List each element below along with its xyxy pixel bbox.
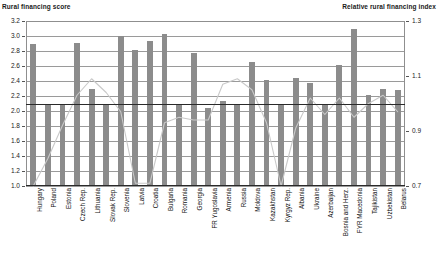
category-label: Belarus — [400, 188, 407, 209]
left-tick-mark — [22, 171, 25, 172]
category-label-text: Estonia — [65, 188, 72, 209]
left-tick-label: 2.8 — [0, 47, 20, 54]
category-label: Poland — [50, 188, 57, 208]
category-label-text: Poland — [50, 188, 57, 208]
category-label: Tajikistan — [371, 188, 378, 214]
category-label: Estonia — [65, 188, 72, 209]
right-tick-mark — [406, 186, 409, 187]
category-label-text: Bosnia and Herz. — [342, 188, 349, 236]
category-label-text: Romania — [181, 188, 188, 213]
category-label-text: Russia — [240, 188, 247, 207]
left-tick-label: 2.6 — [0, 62, 20, 69]
left-tick-label: 1.2 — [0, 167, 20, 174]
category-label-text: Tajikistan — [371, 188, 378, 214]
category-label: Kyrgyz Rep. — [284, 188, 291, 222]
left-tick-label: 3.2 — [0, 17, 20, 24]
category-label: Bosnia and Herz. — [342, 188, 349, 236]
category-label: FR Yugoslavia — [211, 188, 218, 229]
right-tick-label: 0.9 — [412, 127, 434, 134]
left-axis-title: Rural financing score — [2, 3, 71, 10]
left-tick-mark — [22, 51, 25, 52]
category-label: Azerbaijan — [327, 188, 334, 218]
category-label-text: Belarus — [400, 188, 407, 209]
category-label: Lithuania — [94, 188, 101, 214]
left-tick-label: 1.0 — [0, 182, 20, 189]
category-label-text: Azerbaijan — [327, 188, 334, 218]
right-tick-mark — [406, 21, 409, 22]
category-label-text: FR Yugoslavia — [211, 188, 218, 229]
right-tick-label: 1.3 — [412, 17, 434, 24]
category-label: Bulgaria — [167, 188, 174, 211]
category-label: Romania — [181, 188, 188, 213]
left-tick-mark — [22, 21, 25, 22]
left-tick-label: 2.4 — [0, 77, 20, 84]
category-label-text: Kazakhstan — [269, 188, 276, 221]
category-label: Armenia — [225, 188, 232, 211]
left-tick-mark — [22, 96, 25, 97]
category-label: Slovenia — [123, 188, 130, 212]
category-label: Hungary — [36, 188, 43, 212]
right-tick-mark — [406, 76, 409, 77]
category-label: Czech Rep. — [79, 188, 86, 221]
category-label: Uzbekistan — [386, 188, 393, 219]
left-tick-mark — [22, 126, 25, 127]
category-label-text: Latvia — [138, 188, 145, 205]
left-tick-label: 2.0 — [0, 107, 20, 114]
category-label-text: Czech Rep. — [79, 188, 86, 221]
category-label-text: Croatia — [152, 188, 159, 208]
category-label-text: FYR Macedonia — [356, 188, 363, 233]
category-label: Moldova — [254, 188, 261, 212]
left-tick-label: 1.6 — [0, 137, 20, 144]
left-tick-label: 3.0 — [0, 32, 20, 39]
category-labels: HungaryPolandEstoniaCzech Rep.LithuaniaS… — [26, 188, 405, 260]
category-label-text: Lithuania — [94, 188, 101, 214]
category-label: Kazakhstan — [269, 188, 276, 221]
right-tick-mark — [406, 131, 409, 132]
right-axis-title: Relative rural financing index — [342, 3, 436, 10]
left-tick-label: 1.4 — [0, 152, 20, 159]
category-label-text: Bulgaria — [167, 188, 174, 211]
x-axis-line — [26, 185, 405, 186]
category-label: Latvia — [138, 188, 145, 205]
category-label-text: Armenia — [225, 188, 232, 211]
category-label-text: Albania — [298, 188, 305, 209]
left-tick-label: 2.2 — [0, 92, 20, 99]
category-label-text: Hungary — [36, 188, 43, 212]
left-tick-mark — [22, 81, 25, 82]
category-label: Albania — [298, 188, 305, 209]
category-label-text: Slovenia — [123, 188, 130, 212]
left-tick-label: 1.8 — [0, 122, 20, 129]
category-label-text: Ukraine — [313, 188, 320, 210]
category-label: FYR Macedonia — [356, 188, 363, 233]
right-tick-label: 1.1 — [412, 72, 434, 79]
left-tick-mark — [22, 156, 25, 157]
left-tick-mark — [22, 111, 25, 112]
left-tick-mark — [22, 186, 25, 187]
category-label-text: Kyrgyz Rep. — [284, 188, 291, 222]
category-label-text: Georgia — [196, 188, 203, 210]
plot-area — [26, 21, 405, 186]
category-label-text: Moldova — [254, 188, 261, 212]
index-line — [33, 79, 397, 186]
chart-root: Rural financing score Relative rural fin… — [0, 0, 439, 260]
category-label: Ukraine — [313, 188, 320, 210]
category-label-text: Uzbekistan — [386, 188, 393, 219]
left-tick-mark — [22, 66, 25, 67]
left-tick-mark — [22, 141, 25, 142]
category-label: Slovak Rep. — [109, 188, 116, 222]
left-tick-mark — [22, 36, 25, 37]
category-label: Georgia — [196, 188, 203, 210]
right-tick-label: 0.7 — [412, 182, 434, 189]
category-label: Russia — [240, 188, 247, 207]
category-label: Croatia — [152, 188, 159, 208]
reference-line — [26, 104, 405, 105]
category-label-text: Slovak Rep. — [109, 188, 116, 222]
